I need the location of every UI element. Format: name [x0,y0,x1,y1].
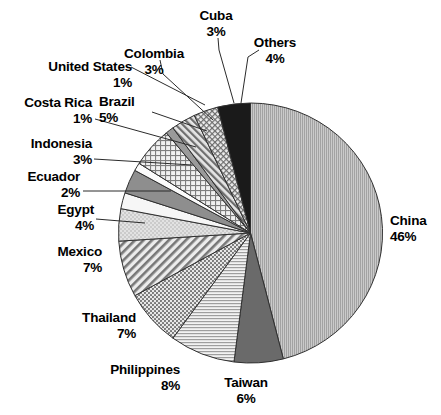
slice-label-indonesia-name: Indonesia [31,136,92,151]
slice-label-thailand-pct: 7% [20,326,136,342]
slice-label-united-states-pct: 1% [12,75,132,91]
slice-label-china-pct: 46% [390,229,440,245]
slice-label-taiwan-pct: 6% [206,391,286,407]
slice-label-brazil: Brazil 5% [99,94,163,125]
slice-label-philippines-name: Philippines [110,362,180,377]
slice-label-philippines-pct: 8% [38,378,180,394]
slice-label-philippines: Philippines 8% [38,362,180,393]
slice-label-cuba-pct: 3% [183,24,249,40]
slice-label-united-states: United States 1% [12,59,132,90]
slice-label-mexico-name: Mexico [57,244,102,259]
pie-slice-group [119,103,383,363]
slice-label-mexico: Mexico 7% [6,244,102,275]
slice-label-taiwan: Taiwan 6% [206,375,286,406]
slice-label-cuba: Cuba 3% [183,8,249,39]
slice-label-costa-rica-name: Costa Rica [24,95,92,110]
slice-label-others-pct: 4% [244,51,306,67]
slice-label-china-name: China [390,213,427,228]
slice-label-thailand: Thailand 7% [20,310,136,341]
slice-label-taiwan-name: Taiwan [224,375,268,390]
slice-label-others-name: Others [254,35,296,50]
leader-cuba [218,38,234,103]
slice-label-mexico-pct: 7% [6,260,102,276]
slice-label-cuba-name: Cuba [200,8,233,23]
slice-label-costa-rica: Costa Rica 1% [0,95,92,126]
slice-label-colombia-name: Colombia [124,46,184,61]
slice-label-ecuador-name: Ecuador [27,169,80,184]
slice-label-brazil-name: Brazil [99,94,135,109]
pie-chart-figure: Cuba 3% Others 4% Colombia 3% United Sta… [0,0,441,415]
slice-label-brazil-pct: 5% [99,110,163,126]
slice-label-costa-rica-pct: 1% [0,111,92,127]
slice-label-others: Others 4% [244,35,306,66]
slice-label-united-states-name: United States [48,59,132,74]
slice-label-china: China 46% [390,213,440,244]
slice-label-indonesia: Indonesia 3% [0,136,92,167]
slice-label-egypt-pct: 4% [6,218,94,234]
slice-label-thailand-name: Thailand [82,310,136,325]
slice-label-ecuador: Ecuador 2% [0,169,80,200]
slice-label-egypt: Egypt 4% [6,202,94,233]
slice-label-egypt-name: Egypt [57,202,94,217]
slice-label-indonesia-pct: 3% [0,152,92,168]
slice-label-ecuador-pct: 2% [0,185,80,201]
